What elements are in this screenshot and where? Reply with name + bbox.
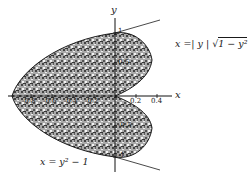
y-tick-label: -1	[118, 152, 125, 159]
x-tick-label: 0.4	[151, 98, 162, 105]
shaded-region	[12, 33, 152, 158]
x-axis-label: x	[175, 90, 181, 100]
y-axis-label: y	[111, 5, 117, 15]
region-diagram	[0, 0, 252, 175]
x-tick-label: -0.6	[43, 98, 57, 105]
x-tick-label: -0.4	[64, 98, 78, 105]
x-tick-label: 0.2	[130, 98, 141, 105]
x-tick-label: -0.2	[85, 98, 99, 105]
y-tick-label: -0.5	[118, 122, 132, 129]
x-tick-label: -0.8	[22, 98, 36, 105]
right-curve-equation-label: x =| y | √1 − y²	[175, 39, 247, 49]
right-curve-equation-radicand: 1 − y²	[218, 37, 247, 49]
y-tick-label: 1	[118, 28, 122, 35]
parabola-equation-label: x = y² − 1	[40, 157, 89, 167]
right-curve-equation-prefix: x =| y |	[175, 38, 212, 49]
y-tick-label: 0.5	[118, 59, 129, 66]
